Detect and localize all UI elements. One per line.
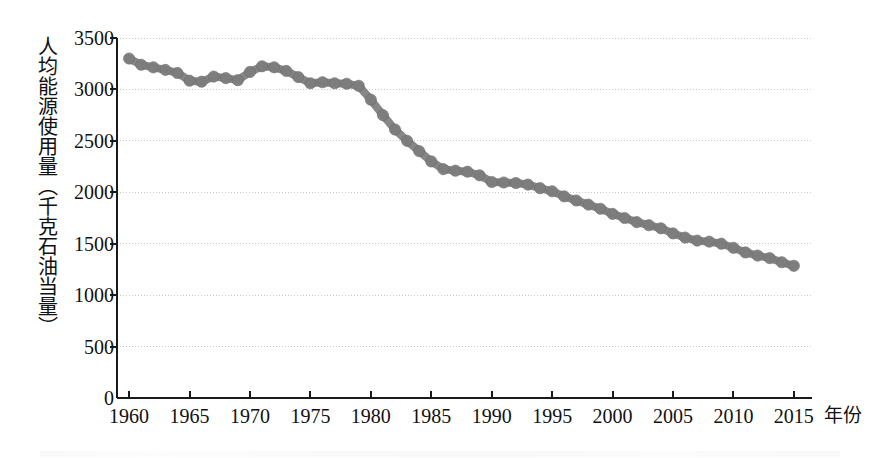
x-tick-label: 1960 — [109, 406, 149, 426]
x-tick-label: 1995 — [532, 406, 572, 426]
x-axis-title: 年份 — [824, 406, 862, 425]
x-tick-label: 1970 — [230, 406, 270, 426]
x-tick-label: 1985 — [411, 406, 451, 426]
x-tick-label: 1980 — [351, 406, 391, 426]
page-edge-artifact — [40, 451, 840, 457]
x-tick-label: 1975 — [290, 406, 330, 426]
x-tick-label: 1990 — [472, 406, 512, 426]
chart-figure: 人均能源使用量（千克石油当量） 050010001500200025003000… — [0, 0, 880, 458]
x-tick-label: 2010 — [713, 406, 753, 426]
x-tick-label: 1965 — [170, 406, 210, 426]
x-axis-tick-labels: 1960196519701975198019851990199520002005… — [0, 0, 880, 458]
x-tick-label: 2015 — [774, 406, 814, 426]
x-tick-label: 2000 — [593, 406, 633, 426]
x-tick-label: 2005 — [653, 406, 693, 426]
